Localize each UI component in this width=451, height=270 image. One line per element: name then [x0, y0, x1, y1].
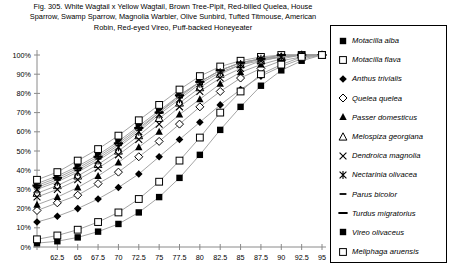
marker-open-diamond [216, 87, 224, 95]
series-line [37, 55, 322, 211]
legend-item: Quelea quelea [337, 89, 446, 108]
marker-filled-triangle [115, 159, 122, 166]
marker-dash-long [175, 94, 184, 96]
x-axis-tick-label: 95 [318, 253, 326, 262]
y-axis-tick-label: 0% [21, 243, 32, 252]
marker-dash-long [256, 58, 265, 60]
series-meliphaga-aruensis [34, 52, 326, 243]
x-axis-tick-label: 80 [196, 253, 204, 262]
marker-open-square [176, 86, 183, 93]
marker-dash-long [73, 167, 82, 169]
y-axis-tick-label: 100% [13, 51, 32, 60]
legend-item-label: Anthus trivialis [352, 74, 402, 83]
marker-filled-square [237, 104, 243, 110]
x-axis-tick-label: 62.5 [50, 253, 64, 262]
marker-dash-long [93, 156, 102, 158]
marker-filled-diamond [339, 75, 347, 83]
marker-dash-short [34, 187, 41, 189]
y-axis-tick-label: 10% [17, 223, 32, 232]
marker-dash-long [134, 127, 143, 129]
marker-open-diamond [135, 153, 143, 161]
marker-open-square [74, 226, 81, 233]
marker-dash-long [53, 177, 62, 179]
marker-dash-long [114, 142, 123, 144]
legend-item: Turdus migratorius [337, 204, 446, 223]
marker-dash-long [216, 69, 225, 71]
series-line [37, 55, 322, 243]
legend-item-label: Parus bicolor [352, 190, 397, 199]
marker-dash-long [236, 62, 245, 64]
figure-title-line-3: Robin, Red-eyed Vireo, Puff-backed Honey… [8, 23, 338, 33]
legend-item: Meliphaga aruensis [337, 242, 446, 261]
legend-item-label: Motacilla flava [352, 55, 401, 64]
legend-item: Motacilla alba [337, 31, 446, 50]
y-axis-tick-label: 40% [17, 166, 32, 175]
marker-filled-triangle [54, 193, 61, 200]
marker-filled-square [136, 209, 142, 215]
series-anthus-trivialis [33, 51, 326, 226]
marker-filled-triangle [135, 143, 142, 150]
legend-item: Motacilla flava [337, 50, 446, 69]
legend-item-label: Passer domesticus [352, 113, 417, 122]
marker-open-square [135, 196, 142, 203]
marker-open-square [115, 132, 122, 139]
marker-filled-diamond [54, 212, 62, 220]
legend-item: Dendroica magnolia [337, 146, 446, 165]
marker-open-square [156, 102, 163, 109]
y-axis-tick-label: 50% [17, 147, 32, 156]
legend-item: Passer domesticus [337, 108, 446, 127]
y-axis-tick-label: 90% [17, 70, 32, 79]
marker-open-square [196, 134, 203, 141]
marker-open-square [115, 209, 122, 216]
legend-marker-dash-long-icon [337, 207, 352, 219]
marker-filled-square [217, 127, 223, 133]
legend-item-label: Meliphaga aruensis [352, 247, 419, 256]
y-axis-tick-label: 20% [17, 204, 32, 213]
legend-marker-dash-short-icon [337, 188, 352, 200]
marker-filled-square [197, 152, 203, 158]
marker-open-square [34, 176, 41, 183]
x-axis-tick-label: 75 [155, 253, 163, 262]
marker-open-square [237, 88, 244, 95]
legend-marker-filled-square-icon [337, 35, 352, 47]
legend-item-label: Turdus migratorius [352, 209, 416, 218]
chart-plot-area: 0%10%20%30%40%50%60%70%80%90%100%62.5656… [0, 40, 330, 270]
marker-filled-triangle [94, 172, 101, 179]
marker-dash-long [155, 112, 164, 114]
marker-filled-diamond [33, 218, 41, 226]
marker-dash-short [340, 193, 347, 195]
x-axis-tick-label: 72.5 [132, 253, 146, 262]
marker-open-square [54, 232, 61, 239]
marker-dash-long [277, 54, 286, 56]
marker-open-diamond [114, 168, 122, 176]
legend-item-label: Vireo olivaceus [352, 228, 404, 237]
marker-open-diamond [74, 191, 82, 199]
marker-dash-long [32, 185, 41, 187]
legend-item-label: Quelea quelea [352, 94, 402, 103]
marker-dash-long [338, 212, 347, 214]
legend-item-label: Dendroica magnolia [352, 151, 420, 160]
marker-open-square [95, 219, 102, 226]
y-axis-tick-label: 60% [17, 127, 32, 136]
marker-filled-triangle [155, 128, 162, 135]
legend-marker-asterisk-icon [337, 169, 352, 181]
marker-filled-triangle [196, 95, 203, 102]
legend-marker-open-square-icon [337, 54, 352, 66]
marker-filled-diamond [94, 195, 102, 203]
chart-legend: Motacilla albaMotacilla flavaAnthus triv… [330, 25, 447, 263]
marker-open-square [176, 157, 183, 164]
marker-open-square [298, 54, 305, 61]
legend-marker-x-cross-icon [337, 150, 352, 162]
y-axis-tick-label: 80% [17, 89, 32, 98]
marker-open-triangle [339, 132, 347, 139]
marker-open-square [135, 117, 142, 124]
marker-open-square [278, 61, 285, 68]
marker-asterisk [340, 171, 347, 179]
legend-marker-filled-triangle-icon [337, 111, 352, 123]
marker-open-square [34, 236, 41, 243]
legend-marker-open-diamond-icon [337, 92, 352, 104]
figure-title-line-2: Sparrow, Swamp Sparrow, Magnolia Warbler… [8, 12, 338, 22]
marker-open-diamond [339, 94, 347, 102]
legend-marker-open-square-icon [337, 246, 352, 258]
line-chart: 0%10%20%30%40%50%60%70%80%90%100%62.5656… [0, 40, 330, 270]
